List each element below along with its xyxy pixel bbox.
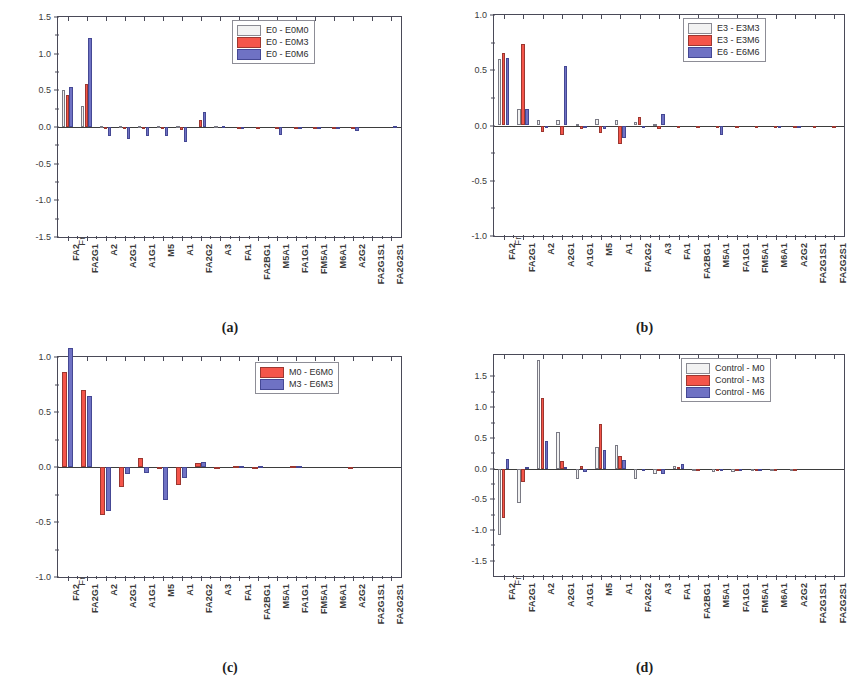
- x-axis-tick-mark: [296, 236, 297, 241]
- x-axis-tick-mark: [659, 235, 660, 240]
- x-axis-category-label: FA2G1S1: [376, 244, 386, 284]
- x-axis-top-tick-mark: [543, 14, 544, 19]
- x-axis-category-label: A2: [546, 583, 556, 595]
- y-axis-tick-mark: [490, 376, 495, 377]
- panel-c: Fractional difference in glycoforms 1.00…: [0, 340, 430, 680]
- bar: [545, 126, 548, 128]
- x-axis-top-tick-mark: [620, 14, 621, 19]
- x-axis-top-tick-mark: [372, 16, 373, 21]
- bar: [642, 126, 645, 128]
- x-axis-category-label: FA2G2S1: [395, 244, 405, 284]
- x-axis-top-tick-mark: [523, 354, 524, 359]
- y-axis-tick-mark: [490, 437, 495, 438]
- x-axis-minor-tick: [172, 576, 173, 579]
- x-axis-category-label: FA2BG1: [702, 243, 712, 279]
- x-axis-top-tick-mark: [640, 14, 641, 19]
- y-axis-tick-mark: [490, 529, 495, 530]
- x-axis-tick-mark: [834, 575, 835, 580]
- x-axis-tick-mark: [776, 235, 777, 240]
- x-axis-minor-tick: [325, 576, 326, 579]
- x-axis-minor-tick: [249, 236, 250, 239]
- x-axis-minor-tick: [363, 576, 364, 579]
- y-axis-tick-mark: [490, 236, 495, 237]
- x-axis-top-tick-mark: [220, 16, 221, 21]
- bar: [506, 459, 509, 468]
- x-axis-minor-tick: [825, 575, 826, 578]
- x-axis-minor-tick: [96, 236, 97, 239]
- bar: [108, 127, 111, 136]
- bar: [182, 467, 187, 478]
- bar: [793, 469, 796, 471]
- x-axis-tick-mark: [737, 575, 738, 580]
- x-axis-top-tick-mark: [659, 14, 660, 19]
- y-axis-tick-mark: [490, 70, 495, 71]
- x-axis-category-label: M5: [604, 243, 614, 256]
- y-axis-tick-mark: [54, 522, 59, 523]
- bar: [661, 114, 664, 125]
- x-axis-minor-tick: [115, 236, 116, 239]
- y-axis-tick-mark: [54, 17, 59, 18]
- bar: [203, 112, 206, 127]
- x-axis-minor-tick: [268, 576, 269, 579]
- x-axis-category-label: A2G1: [128, 584, 138, 608]
- x-axis-minor-tick: [268, 236, 269, 239]
- x-axis-minor-tick: [344, 236, 345, 239]
- x-axis-top-tick-mark: [504, 354, 505, 359]
- legend-item: Control - M3: [686, 374, 765, 386]
- legend-label: Control - M3: [715, 375, 765, 385]
- x-axis-minor-tick: [611, 575, 612, 578]
- bar: [595, 119, 598, 126]
- x-axis-category-label: M6A1: [338, 244, 348, 268]
- x-axis-category-label: FA2: [507, 583, 517, 600]
- bar: [146, 127, 149, 136]
- x-axis-category-label: FA2G1S1: [818, 243, 828, 283]
- bar: [163, 467, 168, 500]
- x-axis-top-tick-mark: [562, 354, 563, 359]
- x-axis-category-label: A3: [663, 243, 673, 255]
- legend-label: M0 - E6M0: [289, 367, 333, 377]
- bar: [241, 127, 244, 129]
- panel-b: Fractional difference in glycoforms 1.00…: [430, 0, 859, 340]
- bar: [696, 126, 699, 128]
- bar: [258, 466, 263, 468]
- x-axis-top-tick-mark: [834, 354, 835, 359]
- x-axis-category-label: M5A1: [281, 584, 291, 608]
- x-axis-top-tick-mark: [582, 354, 583, 359]
- x-axis-top-tick-mark: [679, 14, 680, 19]
- x-axis-minor-tick: [533, 575, 534, 578]
- y-axis-tick-mark: [54, 90, 59, 91]
- x-axis-top-tick-mark: [679, 354, 680, 359]
- bar: [525, 467, 528, 469]
- bar: [622, 126, 625, 138]
- bar: [290, 466, 295, 468]
- x-axis-minor-tick: [306, 576, 307, 579]
- bar: [521, 469, 524, 483]
- bar: [393, 126, 396, 128]
- y-axis-tick-mark: [54, 412, 59, 413]
- y-axis-minor-tick: [55, 218, 59, 219]
- x-axis-tick-mark: [601, 235, 602, 240]
- x-axis-tick-mark: [815, 235, 816, 240]
- x-axis-minor-tick: [287, 576, 288, 579]
- x-axis-top-tick-mark: [68, 16, 69, 21]
- x-axis-tick-mark: [718, 235, 719, 240]
- legend-a: E0 - E0M0E0 - E0M3E0 - E0M6: [232, 20, 315, 64]
- bar: [317, 127, 320, 129]
- x-axis-top-tick-mark: [353, 356, 354, 361]
- x-axis-top-tick-mark: [795, 354, 796, 359]
- x-axis-category-label: A1: [624, 583, 634, 595]
- x-axis-minor-tick: [230, 236, 231, 239]
- x-axis-minor-tick: [210, 236, 211, 239]
- x-axis-category-label: A2G1: [128, 244, 138, 268]
- legend-c: M0 - E6M0M3 - E6M3: [255, 362, 339, 394]
- legend-color-swatch: [686, 387, 710, 398]
- x-axis-top-tick-mark: [834, 14, 835, 19]
- x-axis-tick-mark: [776, 575, 777, 580]
- legend-label: Control - M6: [715, 387, 765, 397]
- y-axis-minor-tick: [491, 42, 495, 43]
- bar: [298, 127, 301, 129]
- bar: [720, 126, 723, 136]
- bar: [214, 467, 219, 469]
- y-axis-minor-tick: [55, 549, 59, 550]
- x-axis-tick-mark: [582, 575, 583, 580]
